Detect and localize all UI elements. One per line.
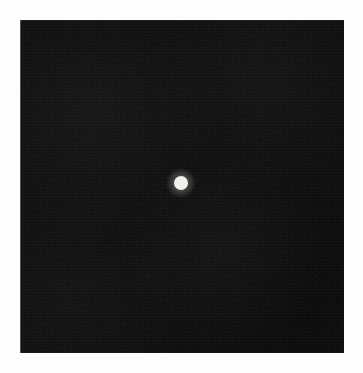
point-source-marker [174, 176, 188, 190]
image-canvas [0, 0, 363, 373]
plate-edge-right [343, 20, 344, 353]
plate-edge-bottom [20, 352, 344, 353]
plate-edge-left-hairline [20, 20, 21, 353]
plate-edge-top [20, 20, 344, 21]
